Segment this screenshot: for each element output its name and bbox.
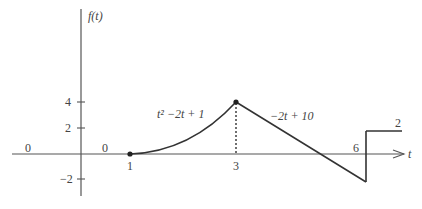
y-tick-label-2: 2 — [65, 122, 71, 134]
linear-expression-label: −2t + 10 — [270, 110, 314, 122]
region-label-zero-far-left: 0 — [25, 142, 31, 154]
constant-value-label: 2 — [395, 117, 401, 129]
point-t3 — [233, 99, 238, 104]
x-axis-label: t — [408, 148, 411, 160]
x-tick-label-6: 6 — [353, 142, 359, 154]
x-tick-label-3: 3 — [233, 160, 239, 172]
y-tick-label-neg2: −2 — [60, 173, 73, 185]
region-label-zero-near-left: 0 — [102, 142, 108, 154]
y-tick-label-4: 4 — [65, 96, 71, 108]
x-tick-label-1: 1 — [127, 160, 133, 172]
point-t1 — [127, 151, 132, 156]
y-axis-label: f(t) — [88, 10, 103, 22]
quadratic-expression-label: t² −2t + 1 — [157, 108, 204, 120]
